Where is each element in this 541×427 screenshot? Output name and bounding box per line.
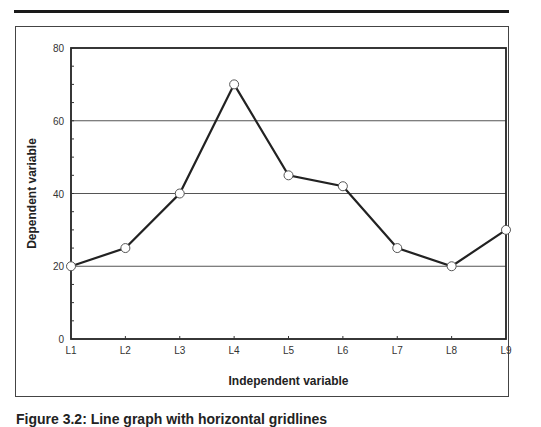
y-tick-label: 0 bbox=[58, 334, 64, 345]
x-tick-label: L4 bbox=[229, 345, 241, 356]
x-tick-label: L8 bbox=[446, 345, 458, 356]
data-point-marker bbox=[230, 80, 239, 89]
y-tick-label: 20 bbox=[53, 261, 65, 272]
x-tick-label: L6 bbox=[337, 345, 349, 356]
data-point-marker bbox=[338, 182, 347, 191]
x-tick-label: L2 bbox=[120, 345, 132, 356]
data-point-marker bbox=[67, 262, 76, 271]
x-tick-label: L3 bbox=[174, 345, 186, 356]
x-tick-label: L5 bbox=[283, 345, 295, 356]
data-point-marker bbox=[393, 244, 402, 253]
figure-caption: Figure 3.2: Line graph with horizontal g… bbox=[16, 411, 327, 427]
data-point-marker bbox=[175, 189, 184, 198]
x-axis-label: Independent variable bbox=[228, 374, 348, 388]
data-point-marker bbox=[121, 244, 130, 253]
y-tick-label: 80 bbox=[53, 43, 65, 54]
data-point-marker bbox=[502, 225, 511, 234]
y-tick-label: 40 bbox=[53, 189, 65, 200]
data-point-marker bbox=[284, 171, 293, 180]
y-tick-label: 60 bbox=[53, 116, 65, 127]
x-tick-label: L1 bbox=[65, 345, 77, 356]
x-tick-label: L9 bbox=[500, 345, 512, 356]
x-tick-label: L7 bbox=[392, 345, 404, 356]
data-point-marker bbox=[447, 262, 456, 271]
y-axis-label: Dependent variable bbox=[25, 138, 39, 249]
